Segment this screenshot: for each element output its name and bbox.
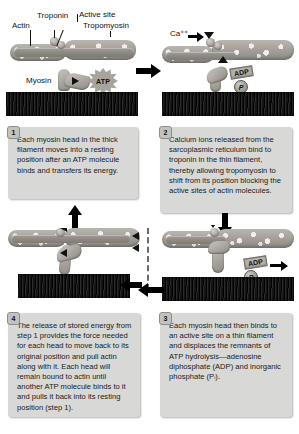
thick-filament [162, 92, 294, 116]
energy-transfer-arrow-icon [72, 77, 79, 85]
step-2-text: Calcium ions released from the sarcoplas… [169, 135, 285, 196]
movement-arrow-icon [132, 232, 139, 240]
active-site-tick [77, 14, 78, 22]
step-1-badge: 1 [7, 126, 20, 139]
arrow-step1-to-step2 [136, 64, 162, 78]
thick-filament [162, 277, 294, 301]
movement-arrow-icon [132, 244, 139, 252]
tropomyosin-shift-arrow-icon [218, 56, 228, 63]
panel-1-illustration: ATP [6, 30, 138, 118]
figure-canvas: ATP Actin Troponin Active site Tropomyos… [0, 0, 299, 434]
step-3-badge: 3 [159, 312, 172, 325]
label-myosin: Myosin [26, 77, 51, 85]
step-2-badge: 2 [159, 126, 172, 139]
thick-filament [18, 274, 130, 298]
atp-molecule: ATP [88, 68, 118, 94]
step-4-textbox: 4 The release of stored energy from step… [8, 313, 140, 417]
label-actin: Actin [12, 22, 30, 30]
step-4-text: The release of stored energy from step 1… [17, 321, 133, 413]
cross-bridge-arrow-icon [208, 225, 218, 228]
label-active-site: Active site [79, 11, 115, 19]
step-1-textbox: 1 Each myosin head in the thick filament… [8, 127, 138, 199]
tropomyosin-strand [12, 235, 130, 243]
tropomyosin-tick [110, 31, 111, 37]
adp-molecule: ADP [243, 255, 267, 269]
troponin-leader-line [54, 30, 55, 38]
step-1-text: Each myosin head in the thick filament m… [17, 135, 131, 176]
step-2-textbox: 2 Calcium ions released from the sarcopl… [160, 127, 292, 213]
adp-release-arrow [270, 261, 292, 271]
filament-slide-arrow-icon [60, 228, 67, 232]
panel-divider [147, 228, 149, 290]
step-3-text: Each myosin head then binds to an active… [169, 321, 285, 382]
actin-leader-line [30, 30, 31, 46]
adp-molecule: ADP [229, 65, 253, 79]
label-calcium: Ca⁺⁺ [170, 30, 188, 38]
step-3-textbox: 3 Each myosin head then binds to an acti… [160, 313, 292, 417]
tropomyosin-strand [14, 48, 134, 57]
myosin-head [208, 241, 230, 254]
myosin-leader-line [50, 92, 51, 106]
power-stroke-arrow-icon [60, 249, 67, 257]
panel-4-illustration [8, 228, 140, 308]
label-tropomyosin: Tropomyosin [83, 22, 129, 30]
myosin-head [204, 65, 229, 85]
calcium-pointer-arrow [188, 32, 206, 42]
troponin-complex [214, 42, 222, 50]
troponin-complex [210, 228, 219, 237]
arrow-step4-to-step1 [68, 205, 82, 229]
thick-filament [6, 92, 138, 116]
step-4-badge: 4 [7, 312, 20, 325]
arrow-step3-to-step4 [138, 283, 164, 297]
panel-2-illustration: ADP P [162, 30, 294, 118]
panel-3-illustration: ADP P [162, 225, 294, 309]
label-troponin: Troponin [37, 12, 68, 20]
